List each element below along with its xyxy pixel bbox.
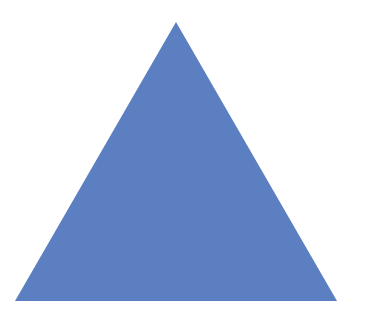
triangle-canvas [0, 0, 368, 329]
blue-triangle-shape [15, 22, 337, 301]
